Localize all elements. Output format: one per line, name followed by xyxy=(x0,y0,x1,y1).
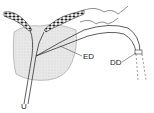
anatomy-drawing xyxy=(0,0,154,113)
diagram-canvas: ED DD U xyxy=(0,0,154,113)
label-u: U xyxy=(21,103,27,111)
left-bladder-wall xyxy=(4,12,32,31)
dd-leader xyxy=(122,53,136,62)
label-dd: DD xyxy=(110,59,122,67)
dd-marker xyxy=(135,50,142,54)
label-ed: ED xyxy=(83,53,94,61)
